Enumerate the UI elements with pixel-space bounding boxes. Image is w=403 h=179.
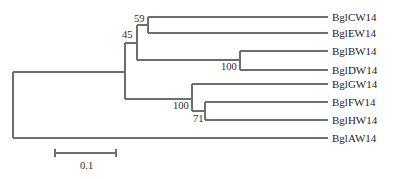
clade-71 bbox=[205, 102, 328, 120]
scale-bar bbox=[55, 149, 116, 157]
bootstrap-100-bw-dw: 100 bbox=[221, 62, 237, 72]
leaf-label-bglaw14: BglAW14 bbox=[332, 133, 376, 144]
scale-bar-label: 0.1 bbox=[80, 161, 93, 171]
leaf-label-bglew14: BglEW14 bbox=[332, 28, 376, 39]
bootstrap-71: 71 bbox=[193, 114, 204, 124]
leaf-label-bglhw14: BglHW14 bbox=[332, 115, 377, 126]
leaf-label-bglcw14: BglCW14 bbox=[332, 12, 377, 23]
bootstrap-59: 59 bbox=[134, 14, 145, 24]
clade-bw-dw bbox=[240, 51, 328, 70]
clade-59 bbox=[148, 17, 328, 33]
bootstrap-100-gw: 100 bbox=[173, 101, 189, 111]
leaf-label-bglgw14: BglGW14 bbox=[332, 79, 377, 90]
leaf-label-bglbw14: BglBW14 bbox=[332, 46, 377, 57]
clade-45 bbox=[137, 25, 240, 60]
leaf-label-bglfw14: BglFW14 bbox=[332, 97, 375, 108]
leaf-label-bgldw14: BglDW14 bbox=[332, 65, 377, 76]
bootstrap-45: 45 bbox=[122, 30, 133, 40]
ingroup-clade bbox=[125, 43, 192, 99]
root-clade bbox=[13, 72, 328, 138]
clade-gw-fw-hw bbox=[192, 84, 328, 111]
